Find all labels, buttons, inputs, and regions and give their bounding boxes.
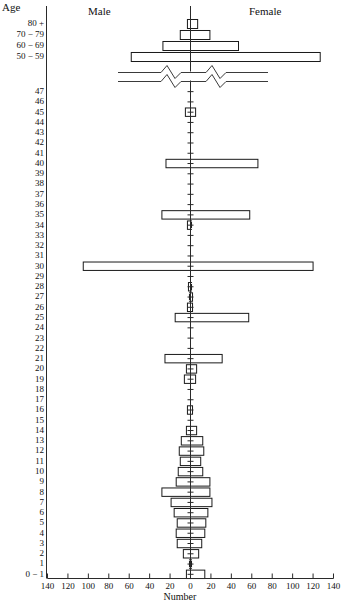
bar-female	[191, 52, 321, 61]
bar-female	[191, 211, 250, 219]
bar-male	[131, 52, 190, 61]
axis-layer	[47, 6, 334, 579]
population-pyramid-chart: Age Male Female Number 80 +70 − 7960 − 6…	[0, 0, 360, 607]
bar-female	[191, 30, 210, 39]
pyramid-plot-area	[0, 0, 360, 607]
bar-male	[180, 30, 190, 39]
bar-male	[162, 211, 191, 219]
bar-female	[191, 159, 258, 167]
bar-female	[191, 19, 198, 28]
bar-female	[191, 262, 314, 270]
bar-male	[166, 159, 191, 167]
bar-female	[191, 41, 239, 50]
bar-female	[191, 354, 223, 362]
bar-male	[163, 41, 191, 50]
bar-female	[191, 498, 212, 506]
axis-break-wave-top	[118, 66, 268, 79]
bar-male	[162, 488, 191, 496]
bars-layer	[83, 19, 320, 578]
bar-male	[165, 354, 191, 362]
axis-break-wave-bottom	[118, 75, 268, 88]
bar-male	[83, 262, 190, 270]
bar-female	[191, 313, 249, 321]
